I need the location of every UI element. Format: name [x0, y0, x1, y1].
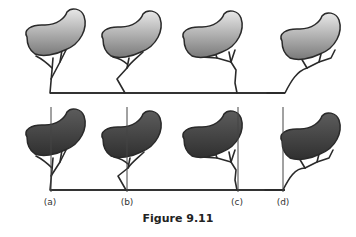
tree — [267, 13, 340, 93]
label-a: (a) — [44, 197, 57, 207]
label-b: (b) — [121, 197, 134, 207]
tree-branch — [118, 158, 130, 190]
tree-crown — [26, 9, 85, 55]
label-d: (d) — [277, 197, 290, 207]
tree — [183, 111, 242, 190]
figure-caption: Figure 9.11 — [0, 212, 356, 225]
tree — [26, 9, 85, 93]
tree-branch — [265, 168, 305, 190]
tree-crown — [183, 111, 242, 157]
tree-crown — [183, 11, 242, 57]
tree-crown — [26, 109, 85, 155]
bottom-row — [26, 107, 340, 192]
tree-branch — [36, 156, 52, 168]
tree — [102, 111, 161, 190]
tree — [265, 113, 340, 190]
label-c: (c) — [231, 197, 243, 207]
tree — [183, 11, 242, 93]
tree-branch — [231, 150, 235, 162]
tree-diagram-figure: (a) (b) (c) (d) Figure 9.11 — [0, 0, 356, 237]
tree-crown — [102, 111, 161, 157]
tree-crown — [281, 13, 340, 59]
tree-branch — [231, 50, 235, 62]
tree-branch — [267, 68, 307, 93]
top-row — [26, 9, 340, 93]
tree — [26, 109, 85, 190]
tree-crown — [102, 11, 161, 57]
tree-branch — [36, 56, 52, 68]
tree — [102, 11, 161, 93]
